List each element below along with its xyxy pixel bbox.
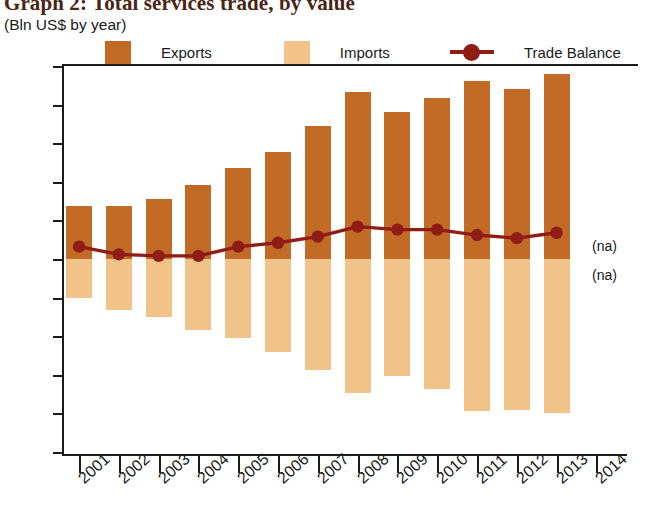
legend-line-dot-icon — [450, 42, 494, 62]
bar-imports — [345, 259, 371, 393]
bar-imports — [106, 259, 132, 310]
legend-item-imports: Imports — [284, 41, 390, 64]
y-tick-mark — [53, 298, 64, 300]
bar-exports — [185, 185, 211, 259]
bar-exports — [544, 74, 570, 259]
bar-imports — [66, 259, 92, 298]
bar-exports — [464, 81, 490, 259]
bar-imports — [504, 259, 530, 410]
bar-imports — [464, 259, 490, 411]
y-tick-mark — [53, 105, 64, 107]
chart-plot-area: 2520151050-5-10-15-20-25 (na) (na) — [62, 64, 627, 454]
bar-imports — [424, 259, 450, 389]
legend-item-trade-balance: Trade Balance — [450, 42, 621, 62]
bar-exports — [504, 89, 530, 259]
page-title: Graph 2: Total services trade, by value — [4, 0, 355, 16]
legend-label-trade-balance: Trade Balance — [524, 44, 621, 61]
bar-exports — [305, 126, 331, 259]
y-tick-mark — [53, 143, 64, 145]
bar-exports — [66, 206, 92, 259]
bar-imports — [305, 259, 331, 370]
y-tick-mark — [53, 66, 64, 68]
legend-swatch-imports-icon — [284, 41, 310, 64]
bar-exports — [424, 98, 450, 259]
zero-baseline — [62, 64, 638, 66]
bar-imports — [544, 259, 570, 413]
chart-legend: Exports Imports Trade Balance — [105, 40, 621, 64]
bar-imports — [384, 259, 410, 376]
y-tick-mark — [53, 413, 64, 415]
bar-imports — [146, 259, 172, 317]
bar-imports — [185, 259, 211, 330]
bar-imports — [225, 259, 251, 338]
legend-label-imports: Imports — [340, 44, 390, 61]
y-tick-mark — [53, 220, 64, 222]
y-tick-mark — [53, 336, 64, 338]
bar-exports — [106, 206, 132, 259]
bar-exports — [146, 199, 172, 259]
bar-exports — [265, 152, 291, 259]
chart-subtitle: (Bln US$ by year) — [4, 16, 126, 34]
legend-item-exports: Exports — [105, 41, 212, 64]
y-tick-mark — [53, 182, 64, 184]
y-tick-mark — [53, 259, 64, 261]
legend-label-exports: Exports — [161, 44, 212, 61]
legend-swatch-exports-icon — [105, 41, 131, 64]
y-tick-mark — [53, 375, 64, 377]
bar-exports — [345, 92, 371, 259]
na-label-below: (na) — [592, 267, 617, 283]
na-label-above: (na) — [592, 238, 617, 254]
bar-imports — [265, 259, 291, 352]
bar-exports — [225, 168, 251, 259]
bar-exports — [384, 112, 410, 259]
